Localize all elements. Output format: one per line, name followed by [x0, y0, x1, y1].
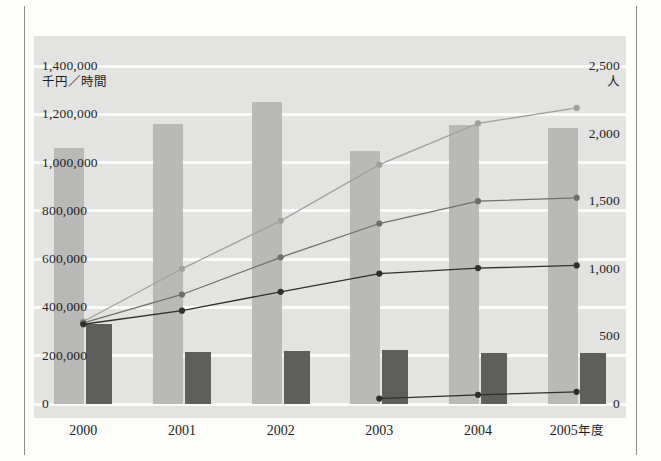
axis-right-tick-label: 500 — [599, 329, 620, 343]
chart-figure: 0200,000400,000600,000800,0001,000,0001,… — [0, 0, 661, 461]
axis-left-tick-label: 1,000,000 — [42, 156, 98, 170]
axis-x-label: 2000 — [34, 424, 133, 438]
marker-line-light — [179, 266, 185, 272]
marker-line-medium — [278, 254, 284, 260]
marker-line-medium — [179, 291, 185, 297]
axis-right-tick-label: 1,000 — [589, 262, 620, 276]
plot-area: 0200,000400,000600,000800,0001,000,0001,… — [34, 36, 626, 418]
page-rule-left — [24, 6, 25, 455]
marker-line-medium — [475, 198, 481, 204]
axis-right-tick-label: 2,500 — [589, 59, 620, 73]
axis-right-tick-label: 2,000 — [589, 127, 620, 141]
lines-layer — [34, 36, 626, 418]
marker-line-light — [574, 105, 580, 111]
axis-x-label: 2001 — [133, 424, 232, 438]
axis-left-tick-label: 800,000 — [42, 204, 87, 218]
marker-line-medium — [376, 220, 382, 226]
marker-line-baseline — [574, 389, 580, 395]
marker-line-light — [278, 218, 284, 224]
marker-line-dark — [376, 270, 382, 276]
marker-line-dark — [278, 289, 284, 295]
marker-line-light — [475, 120, 481, 126]
axis-x-label: 2003 — [330, 424, 429, 438]
marker-line-light — [376, 162, 382, 168]
line-line-medium — [83, 198, 576, 323]
axis-x-label: 2004 — [429, 424, 528, 438]
line-line-light — [83, 108, 576, 322]
axis-x-label: 2005年度 — [527, 424, 626, 438]
axis-x-label: 2002 — [231, 424, 330, 438]
axis-right-unit-label: 人 — [607, 76, 620, 89]
marker-line-medium — [574, 195, 580, 201]
page-rule-right — [636, 6, 637, 455]
line-line-dark — [83, 265, 576, 324]
axis-right-tick-label: 1,500 — [589, 194, 620, 208]
axis-left-unit-label: 千円／時間 — [42, 76, 107, 89]
axis-left-tick-label: 600,000 — [42, 252, 87, 266]
axis-left-tick-label: 1,400,000 — [42, 59, 98, 73]
axis-right-tick-label: 0 — [613, 397, 620, 411]
marker-line-baseline — [376, 395, 382, 401]
marker-line-dark — [80, 321, 86, 327]
marker-line-dark — [475, 265, 481, 271]
axis-left-tick-label: 400,000 — [42, 300, 87, 314]
marker-line-baseline — [475, 392, 481, 398]
axis-left-tick-label: 200,000 — [42, 349, 87, 363]
marker-line-dark — [179, 308, 185, 314]
marker-line-dark — [574, 262, 580, 268]
axis-left-tick-label: 0 — [42, 397, 49, 411]
axis-left-tick-label: 1,200,000 — [42, 107, 98, 121]
